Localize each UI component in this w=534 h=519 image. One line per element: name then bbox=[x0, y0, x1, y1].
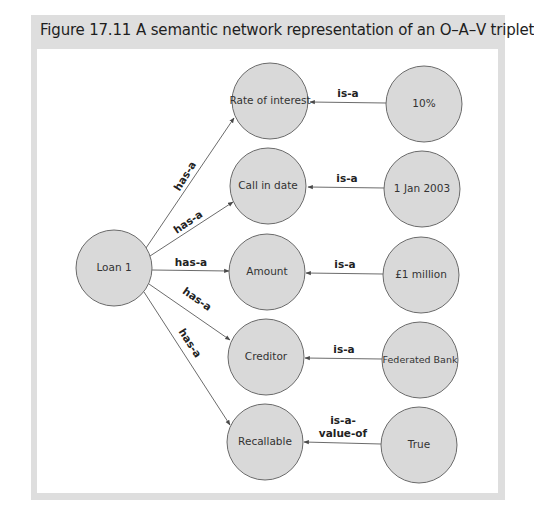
node-creditor: Creditor bbox=[228, 319, 304, 395]
node-call-in-date: Call in date bbox=[230, 148, 306, 224]
edge-label-is-a: is-a bbox=[337, 87, 358, 99]
node-label: Creditor bbox=[245, 350, 288, 362]
node-label: Call in date bbox=[238, 179, 298, 191]
edge-label-has-a: has-a bbox=[171, 159, 198, 193]
node-label: True bbox=[407, 438, 430, 450]
node-label: Rate of interest bbox=[229, 94, 310, 106]
node-10-percent: 10% bbox=[386, 66, 462, 142]
edge-label-is-a: is-a bbox=[333, 343, 354, 355]
edge-label-has-a: has-a bbox=[181, 285, 214, 313]
edge-has-a-amount bbox=[152, 270, 229, 271]
node-label: Amount bbox=[246, 265, 287, 277]
edge-is-a-federated-bank bbox=[305, 358, 382, 359]
edge-has-a-recallable bbox=[144, 292, 230, 425]
edge-is-a-10-percent bbox=[310, 102, 386, 103]
edge-has-a-call-in-date bbox=[150, 202, 233, 256]
node-label: Loan 1 bbox=[96, 261, 131, 273]
node-1-million: £1 million bbox=[383, 237, 459, 313]
node-label: 1 Jan 2003 bbox=[394, 182, 450, 194]
node-recallable: Recallable bbox=[227, 404, 303, 480]
node-rate-of-interest: Rate of interest bbox=[229, 63, 310, 139]
node-federated-bank: Federated Bank bbox=[382, 322, 458, 398]
edge-label-has-a: has-a bbox=[175, 256, 207, 268]
node-label: 10% bbox=[412, 97, 435, 109]
edge-label-is-a-value-of-line1: is-a- bbox=[330, 414, 356, 426]
edge-is-a-1-jan-2003 bbox=[308, 187, 385, 188]
edge-label-is-a-value-of-line2: value-of bbox=[319, 427, 368, 439]
node-label: £1 million bbox=[395, 268, 447, 280]
node-1-jan-2003: 1 Jan 2003 bbox=[384, 151, 460, 227]
node-label: Federated Bank bbox=[383, 354, 458, 365]
edge-label-has-a: has-a bbox=[177, 326, 205, 360]
edge-is-a-1-million bbox=[306, 273, 383, 274]
edge-label-is-a: is-a bbox=[336, 172, 357, 184]
node-amount: Amount bbox=[229, 234, 305, 310]
node-label: Recallable bbox=[238, 435, 292, 447]
node-true: True bbox=[381, 407, 457, 483]
node-loan-1: Loan 1 bbox=[76, 230, 152, 306]
edge-label-is-a: is-a bbox=[334, 258, 355, 270]
edge-is-a-value-of-true bbox=[304, 442, 381, 444]
edge-has-a-rate-of-interest bbox=[146, 118, 234, 248]
